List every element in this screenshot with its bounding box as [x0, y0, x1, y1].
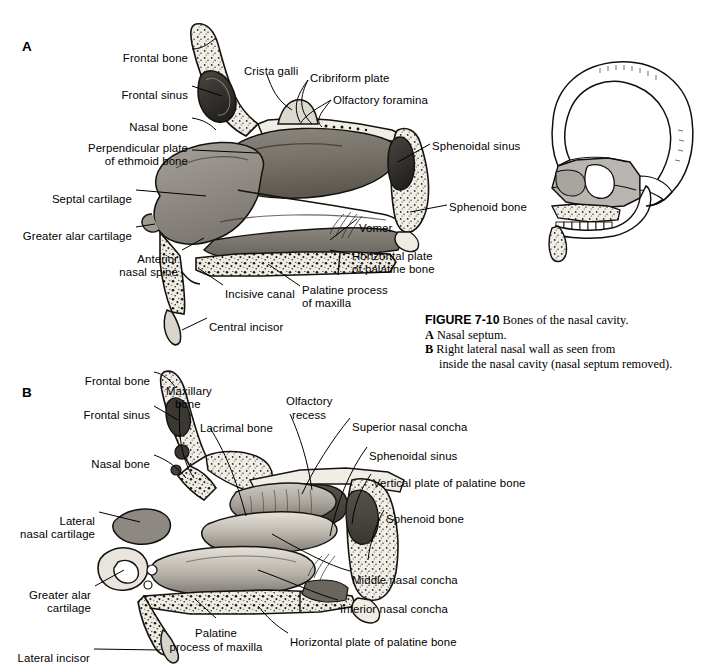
caption-panel-b-text2: inside the nasal cavity (nasal septum re…: [425, 357, 717, 372]
label-b-sphenoid-bone: Sphenoid bone: [386, 513, 464, 526]
label-sphenoidal-sinus: Sphenoidal sinus: [432, 140, 520, 153]
label-cribriform-plate: Cribriform plate: [310, 72, 389, 85]
label-b-nasal-bone: Nasal bone: [91, 458, 150, 471]
label-b-palatine-process-line1: Palatine: [195, 627, 237, 640]
label-olfactory-foramina: Olfactory foramina: [333, 94, 428, 107]
figure-number: FIGURE 7-10: [425, 313, 499, 327]
label-incisive-canal: Incisive canal: [225, 288, 295, 301]
skull-orientation-inset: [549, 62, 693, 262]
caption-panel-b-text: Right lateral nasal wall as seen from: [436, 342, 615, 356]
label-b-sphenoidal-sinus: Sphenoidal sinus: [369, 450, 457, 463]
label-greater-alar-cartilage: Greater alar cartilage: [23, 230, 132, 243]
label-b-inferior-nasal-concha: Inferior nasal concha: [340, 603, 448, 616]
label-b-superior-nasal-concha: Superior nasal concha: [352, 421, 467, 434]
caption-panel-a-text: Nasal septum.: [437, 328, 507, 342]
label-anterior-nasal-spine-line1: Anterior: [137, 253, 178, 266]
label-perpendicular-plate-line2: of ethmoid bone: [105, 155, 188, 168]
panel-letter-a: A: [22, 39, 32, 54]
label-central-incisor: Central incisor: [209, 321, 283, 334]
label-perpendicular-plate-line1: Perpendicular plate: [88, 142, 188, 155]
figure-caption: FIGURE 7-10 Bones of the nasal cavity. A…: [425, 313, 717, 371]
label-b-olfactory-recess-line1: Olfactory: [286, 395, 332, 408]
label-vomer: Vomer: [359, 222, 392, 235]
label-sphenoid-bone: Sphenoid bone: [449, 201, 527, 214]
label-b-greater-alar-cartilage-line2: cartilage: [47, 602, 91, 615]
label-palatine-process-line1: Palatine process: [302, 284, 388, 297]
label-b-greater-alar-cartilage-line1: Greater alar: [29, 589, 91, 602]
label-b-lateral-nasal-cartilage-line1: Lateral: [59, 515, 95, 528]
caption-panel-b-letter: B: [425, 342, 433, 356]
label-nasal-bone: Nasal bone: [129, 121, 188, 134]
caption-panel-a-letter: A: [425, 328, 434, 342]
label-b-lateral-nasal-cartilage-line2: nasal cartilage: [20, 528, 95, 541]
figure-title: Bones of the nasal cavity.: [503, 313, 629, 327]
label-crista-galli: Crista galli: [244, 65, 298, 78]
label-b-frontal-bone: Frontal bone: [85, 375, 150, 388]
label-b-vertical-plate-of-palatine-bone: Vertical plate of palatine bone: [373, 477, 526, 490]
caption-panel-a: A Nasal septum.: [425, 328, 717, 343]
label-horizontal-plate-line2: of palatine bone: [352, 263, 435, 276]
label-b-horizontal-plate-of-palatine-bone: Horizontal plate of palatine bone: [290, 636, 457, 649]
label-frontal-sinus: Frontal sinus: [121, 89, 188, 102]
panel-letter-b: B: [22, 385, 32, 400]
label-b-maxillary-bone-line1: Maxillary: [166, 385, 212, 398]
label-septal-cartilage: Septal cartilage: [52, 193, 132, 206]
label-b-lateral-incisor: Lateral incisor: [18, 652, 90, 665]
label-b-lacrimal-bone: Lacrimal bone: [200, 422, 273, 435]
label-frontal-bone: Frontal bone: [123, 52, 188, 65]
label-horizontal-plate-line1: Horizontal plate: [352, 250, 433, 263]
label-b-palatine-process-line2: process of maxilla: [170, 641, 263, 654]
caption-panel-b: B Right lateral nasal wall as seen from: [425, 342, 717, 357]
label-b-maxillary-bone-line2: bone: [175, 398, 201, 411]
label-anterior-nasal-spine-line2: nasal spine: [119, 266, 178, 279]
label-b-olfactory-recess-line2: recess: [292, 409, 326, 422]
label-palatine-process-line2: of maxilla: [302, 297, 351, 310]
label-b-middle-nasal-concha: Middle nasal concha: [352, 574, 458, 587]
label-b-frontal-sinus: Frontal sinus: [83, 409, 150, 422]
